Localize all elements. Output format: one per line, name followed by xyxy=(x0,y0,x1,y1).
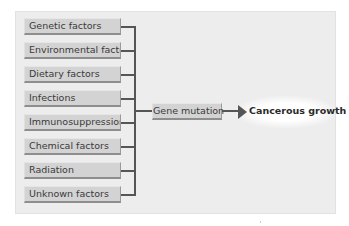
arrow-right-icon xyxy=(238,105,247,119)
cause-dietary-factors: Dietary factors xyxy=(24,66,121,83)
cause-radiation: Radiation xyxy=(24,162,121,179)
gene-mutation-box: Gene mutation xyxy=(152,103,222,120)
cause-unknown-factors: Unknown factors xyxy=(24,186,121,203)
cause-infections: Infections xyxy=(24,90,121,107)
cause-immunosuppression: Immunosuppression xyxy=(24,114,121,131)
cause-environmental-factors: Environmental factors xyxy=(24,42,121,59)
scan-artifact xyxy=(260,221,261,223)
cause-genetic-factors: Genetic factors xyxy=(24,18,121,35)
cause-chemical-factors: Chemical factors xyxy=(24,138,121,155)
outcome-label: Cancerous growth xyxy=(249,104,346,118)
arrow-shaft xyxy=(222,110,239,112)
connector-to-gene-mutation xyxy=(134,110,152,112)
